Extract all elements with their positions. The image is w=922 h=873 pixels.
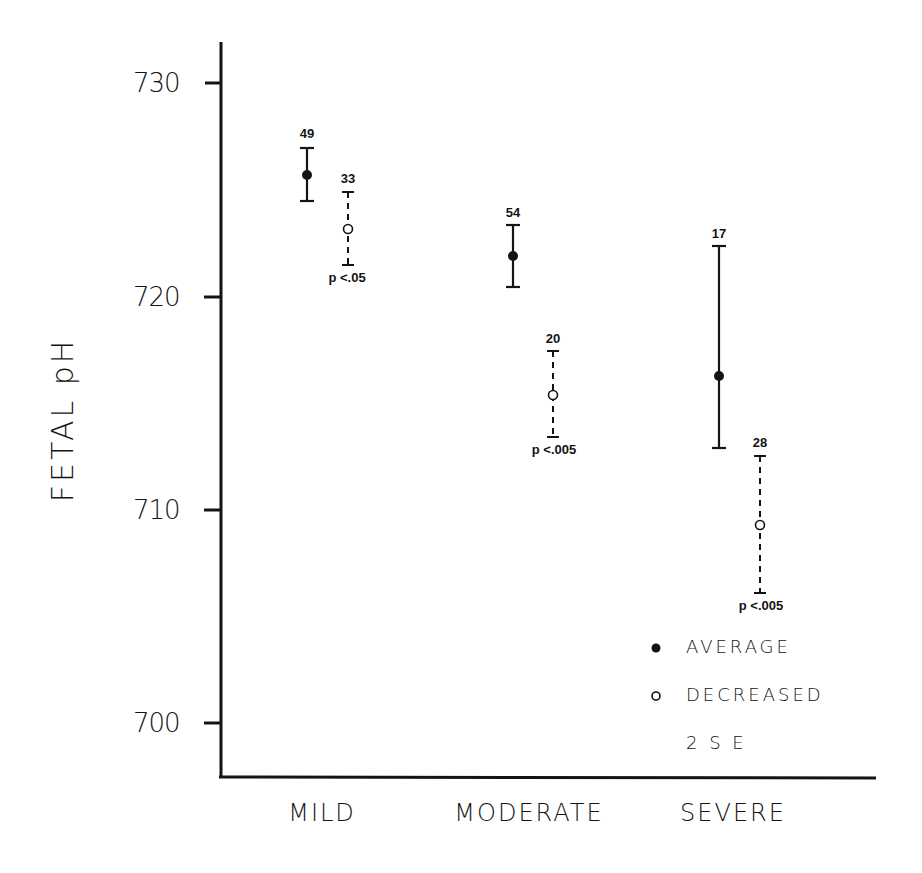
mild-decreased-n-label: 33	[341, 171, 355, 186]
legend-average-marker	[652, 644, 661, 653]
legend-decreased-label: DECREASED	[686, 684, 824, 705]
x-category-severe: SEVERE	[680, 799, 786, 827]
legend-error-label: 2 S E	[686, 732, 747, 753]
mild-average-n-label: 49	[300, 126, 314, 141]
mild-decreased-point	[344, 225, 353, 234]
axes	[204, 42, 876, 778]
severe-average-n-label: 17	[712, 226, 726, 241]
chart-plot-area	[0, 0, 922, 873]
moderate-decreased-n-label: 20	[546, 331, 560, 346]
severe-p-value: p <.005	[739, 598, 783, 613]
legend-average-label: AVERAGE	[686, 636, 791, 657]
x-category-mild: MILD	[288, 799, 356, 827]
severe-decreased-n-label: 28	[753, 435, 767, 450]
mild-average-point	[302, 170, 312, 180]
moderate-average-point	[508, 251, 518, 261]
moderate-average-n-label: 54	[506, 205, 520, 220]
moderate-p-value: p <.005	[532, 442, 576, 457]
mild-p-value: p <.05	[328, 270, 365, 285]
severe-average-point	[714, 371, 724, 381]
x-axis-line	[219, 777, 876, 778]
x-category-moderate: MODERATE	[454, 799, 603, 827]
legend-decreased-marker	[652, 692, 660, 700]
severe-average-errorbar	[712, 246, 726, 448]
moderate-decreased-point	[549, 391, 558, 400]
severe-decreased-point	[756, 521, 765, 530]
